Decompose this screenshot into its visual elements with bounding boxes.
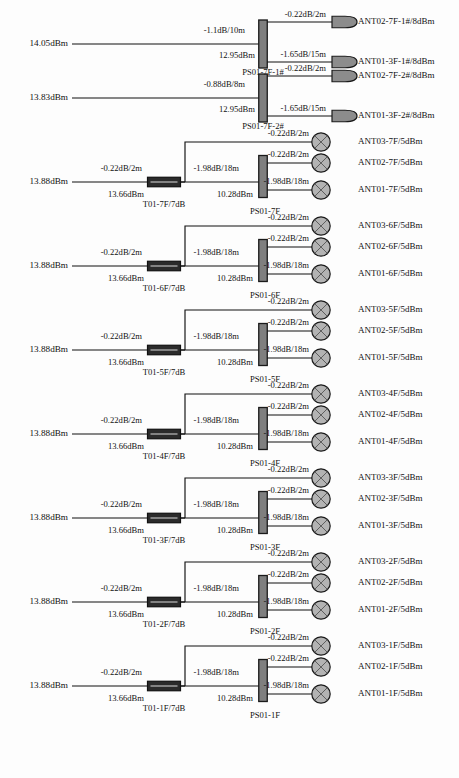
- antenna-bullet-ps01-7f-2-2[interactable]: [332, 110, 357, 122]
- mid-loss-floor-4f: -1.98dB/18m: [193, 416, 239, 425]
- tap-power-floor-5f: 13.66dBm: [108, 358, 144, 367]
- antenna-label-floor-4f-2: ANT02-4F/5dBm: [358, 410, 423, 419]
- feeder-loss-floor-7f: -0.22dB/2m: [101, 164, 142, 173]
- node-power-floor-6f: 10.28dBm: [217, 274, 253, 283]
- mid-loss-floor-3f: -1.98dB/18m: [193, 500, 239, 509]
- input-power-floor-3f: 13.88dBm: [29, 513, 68, 522]
- antenna-label-floor-5f-1: ANT01-5F/5dBm: [358, 353, 423, 362]
- tap-label-floor-4f: T01-4F/7dB: [143, 452, 186, 461]
- antenna-label-floor-6f-2: ANT02-6F/5dBm: [358, 242, 423, 251]
- mid-loss-floor-1f: -1.98dB/18m: [193, 668, 239, 677]
- input-power-ps01-7f-1: 14.05dBm: [29, 39, 68, 48]
- splitter-ps01-7f-1[interactable]: [259, 20, 268, 68]
- tap-branch-loss-floor-2f: -0.22dB/2m: [268, 549, 309, 558]
- feeder-loss-ps01-7f-1: -1.1dB/10m: [204, 26, 245, 35]
- antenna-label-floor-5f-3: ANT03-5F/5dBm: [358, 305, 423, 314]
- branch-loss-floor-3f-1: -0.22dB/2m: [268, 486, 309, 495]
- branch-loss-ps01-7f-1-1: -0.22dB/2m: [285, 10, 326, 19]
- tap-power-floor-1f: 13.66dBm: [108, 694, 144, 703]
- antenna-label-floor-2f-3: ANT03-2F/5dBm: [358, 557, 423, 566]
- branch-loss-floor-2f-2: -1.98dB/18m: [263, 597, 309, 606]
- node-power-floor-4f: 10.28dBm: [217, 442, 253, 451]
- antenna-bullet-ps01-7f-1-1[interactable]: [332, 16, 357, 28]
- tap-label-floor-6f: T01-6F/7dB: [143, 284, 186, 293]
- branch-loss-ps01-7f-2-2: -1.65dB/15m: [280, 104, 326, 113]
- tap-branch-loss-floor-1f: -0.22dB/2m: [268, 633, 309, 642]
- antenna-label-floor-3f-1: ANT01-3F/5dBm: [358, 521, 423, 530]
- tap-power-floor-2f: 13.66dBm: [108, 610, 144, 619]
- node-label-floor-1f: PS01-1F: [250, 711, 280, 720]
- mid-loss-floor-5f: -1.98dB/18m: [193, 332, 239, 341]
- feeder-loss-floor-6f: -0.22dB/2m: [101, 248, 142, 257]
- antenna-label-floor-1f-3: ANT03-1F/5dBm: [358, 641, 423, 650]
- branch-loss-floor-7f-2: -1.98dB/18m: [263, 177, 309, 186]
- branch-loss-floor-3f-2: -1.98dB/18m: [263, 513, 309, 522]
- antenna-label-floor-6f-1: ANT01-6F/5dBm: [358, 269, 423, 278]
- diagram-canvas: 14.05dBm-1.1dB/10m12.95dBmPS01-7F-1#-0.2…: [0, 0, 459, 778]
- mid-loss-floor-7f: -1.98dB/18m: [193, 164, 239, 173]
- mid-loss-floor-2f: -1.98dB/18m: [193, 584, 239, 593]
- antenna-label-floor-3f-3: ANT03-3F/5dBm: [358, 473, 423, 482]
- input-power-floor-7f: 13.88dBm: [29, 177, 68, 186]
- mid-loss-floor-6f: -1.98dB/18m: [193, 248, 239, 257]
- antenna-label-floor-2f-2: ANT02-2F/5dBm: [358, 578, 423, 587]
- antenna-label-floor-6f-3: ANT03-6F/5dBm: [358, 221, 423, 230]
- antenna-label-floor-1f-2: ANT02-1F/5dBm: [358, 662, 423, 671]
- tap-branch-loss-floor-6f: -0.22dB/2m: [268, 213, 309, 222]
- tap-branch-loss-floor-3f: -0.22dB/2m: [268, 465, 309, 474]
- antenna-label-floor-4f-1: ANT01-4F/5dBm: [358, 437, 423, 446]
- antenna-bullet-ps01-7f-2-1[interactable]: [332, 70, 357, 82]
- antenna-label-floor-3f-2: ANT02-3F/5dBm: [358, 494, 423, 503]
- tap-power-floor-4f: 13.66dBm: [108, 442, 144, 451]
- branch-loss-floor-1f-1: -0.22dB/2m: [268, 654, 309, 663]
- tap-label-floor-1f: T01-1F/7dB: [143, 704, 186, 713]
- branch-loss-floor-6f-2: -1.98dB/18m: [263, 261, 309, 270]
- branch-loss-floor-2f-1: -0.22dB/2m: [268, 570, 309, 579]
- tap-branch-loss-floor-7f: -0.22dB/2m: [268, 129, 309, 138]
- input-power-floor-6f: 13.88dBm: [29, 261, 68, 270]
- feeder-loss-floor-1f: -0.22dB/2m: [101, 668, 142, 677]
- node-power-floor-5f: 10.28dBm: [217, 358, 253, 367]
- input-power-ps01-7f-2: 13.83dBm: [29, 93, 68, 102]
- branch-loss-floor-5f-2: -1.98dB/18m: [263, 345, 309, 354]
- input-power-floor-2f: 13.88dBm: [29, 597, 68, 606]
- tap-power-floor-6f: 13.66dBm: [108, 274, 144, 283]
- antenna-label-floor-7f-3: ANT03-7F/5dBm: [358, 137, 423, 146]
- input-power-floor-5f: 13.88dBm: [29, 345, 68, 354]
- antenna-bullet-ps01-7f-1-2[interactable]: [332, 56, 357, 68]
- feeder-loss-floor-5f: -0.22dB/2m: [101, 332, 142, 341]
- branch-loss-floor-4f-1: -0.22dB/2m: [268, 402, 309, 411]
- antenna-label-floor-2f-1: ANT01-2F/5dBm: [358, 605, 423, 614]
- node-power-floor-1f: 10.28dBm: [217, 694, 253, 703]
- tap-power-floor-3f: 13.66dBm: [108, 526, 144, 535]
- antenna-label-floor-7f-2: ANT02-7F/5dBm: [358, 158, 423, 167]
- node-power-ps01-7f-1: 12.95dBm: [219, 51, 255, 60]
- input-power-floor-1f: 13.88dBm: [29, 681, 68, 690]
- antenna-label-ps01-7f-1-2: ANT01-3F-1#/8dBm: [358, 57, 435, 66]
- feeder-loss-floor-2f: -0.22dB/2m: [101, 584, 142, 593]
- antenna-label-floor-1f-1: ANT01-1F/5dBm: [358, 689, 423, 698]
- tap-branch-loss-floor-5f: -0.22dB/2m: [268, 297, 309, 306]
- tap-branch-loss-floor-4f: -0.22dB/2m: [268, 381, 309, 390]
- node-power-floor-2f: 10.28dBm: [217, 610, 253, 619]
- node-power-floor-7f: 10.28dBm: [217, 190, 253, 199]
- feeder-loss-floor-4f: -0.22dB/2m: [101, 416, 142, 425]
- node-label-ps01-7f-1: PS01-7F-1#: [242, 68, 284, 77]
- branch-loss-ps01-7f-2-1: -0.22dB/2m: [285, 64, 326, 73]
- branch-loss-floor-1f-2: -1.98dB/18m: [263, 681, 309, 690]
- antenna-label-ps01-7f-2-1: ANT02-7F-2#/8dBm: [358, 71, 435, 80]
- feeder-loss-floor-3f: -0.22dB/2m: [101, 500, 142, 509]
- antenna-label-floor-4f-3: ANT03-4F/5dBm: [358, 389, 423, 398]
- node-power-floor-3f: 10.28dBm: [217, 526, 253, 535]
- antenna-label-floor-7f-1: ANT01-7F/5dBm: [358, 185, 423, 194]
- branch-loss-ps01-7f-1-2: -1.65dB/15m: [280, 50, 326, 59]
- antenna-label-floor-5f-2: ANT02-5F/5dBm: [358, 326, 423, 335]
- splitter-ps01-7f-2[interactable]: [259, 74, 268, 122]
- tap-power-floor-7f: 13.66dBm: [108, 190, 144, 199]
- branch-loss-floor-4f-2: -1.98dB/18m: [263, 429, 309, 438]
- tap-label-floor-5f: T01-5F/7dB: [143, 368, 186, 377]
- node-power-ps01-7f-2: 12.95dBm: [219, 105, 255, 114]
- antenna-label-ps01-7f-1-1: ANT02-7F-1#/8dBm: [358, 17, 435, 26]
- antenna-label-ps01-7f-2-2: ANT01-3F-2#/8dBm: [358, 111, 435, 120]
- tap-label-floor-3f: T01-3F/7dB: [143, 536, 186, 545]
